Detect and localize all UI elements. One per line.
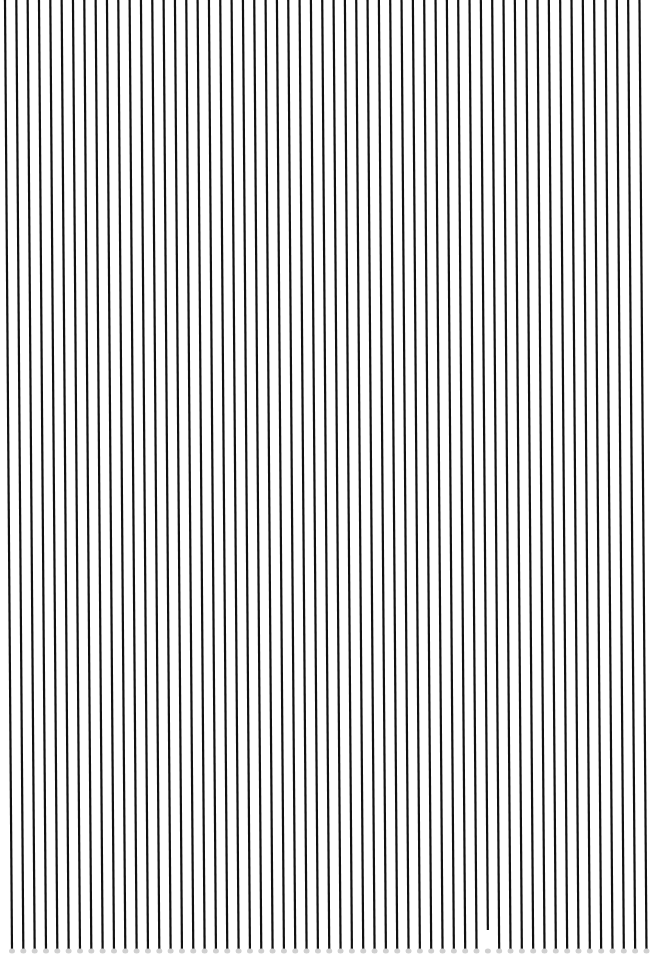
line-end-dot xyxy=(77,949,83,954)
grating-line xyxy=(232,0,239,950)
grating-line xyxy=(266,0,273,950)
line-end-dot xyxy=(621,949,627,954)
grating-line xyxy=(538,0,545,950)
grating-line xyxy=(118,0,125,950)
grating-line xyxy=(560,0,567,950)
line-end-dot xyxy=(519,949,525,954)
grating-line xyxy=(130,0,137,950)
grating-line xyxy=(107,0,114,950)
grating-line xyxy=(322,0,329,950)
line-end-dot xyxy=(190,949,196,954)
grating-line xyxy=(470,0,477,950)
line-end-dot xyxy=(553,949,559,954)
grating-line xyxy=(368,0,375,950)
line-end-dot xyxy=(576,949,582,954)
line-end-dot xyxy=(304,949,310,954)
grating-line xyxy=(141,0,148,950)
line-end-dot xyxy=(372,949,378,954)
line-end-dot xyxy=(451,949,457,954)
grating-line xyxy=(458,0,465,950)
line-end-dot xyxy=(508,949,514,954)
grating-line xyxy=(379,0,386,950)
grating-line xyxy=(526,0,533,950)
grating-line xyxy=(164,0,171,950)
line-end-dot xyxy=(485,949,491,954)
line-end-dot xyxy=(156,949,162,954)
grating-line xyxy=(39,0,46,950)
line-end-dot xyxy=(338,949,344,954)
grating-line xyxy=(50,0,57,950)
grating-line xyxy=(356,0,363,950)
grating-line xyxy=(277,0,284,950)
line-end-dot xyxy=(66,949,72,954)
line-end-dot xyxy=(88,949,94,954)
grating-line xyxy=(186,0,193,950)
line-end-dot xyxy=(542,949,548,954)
grating-line xyxy=(492,0,499,950)
line-end-dot xyxy=(43,949,49,954)
line-end-dot xyxy=(134,949,140,954)
grating-line xyxy=(402,0,409,950)
grating-line xyxy=(436,0,443,950)
line-end-dot xyxy=(100,949,106,954)
line-end-dot xyxy=(20,949,26,954)
line-end-dot xyxy=(360,949,366,954)
grating-line xyxy=(28,0,35,950)
line-end-dot xyxy=(168,949,174,954)
grating-line xyxy=(62,0,69,950)
line-end-dot xyxy=(122,949,128,954)
grating-line xyxy=(16,0,23,950)
line-end-dot xyxy=(496,949,502,954)
line-end-dot xyxy=(247,949,253,954)
grating-line xyxy=(152,0,159,950)
line-end-dot xyxy=(179,949,185,954)
line-end-dot xyxy=(406,949,412,954)
line-end-dot xyxy=(224,949,230,954)
line-end-dot xyxy=(440,949,446,954)
line-end-dot xyxy=(564,949,570,954)
line-end-dot xyxy=(258,949,264,954)
grating-line xyxy=(84,0,91,950)
line-end-dot xyxy=(326,949,332,954)
grating-line xyxy=(300,0,307,950)
line-end-dot xyxy=(32,949,38,954)
grating-line xyxy=(447,0,454,950)
grating-line xyxy=(96,0,103,950)
grating-line xyxy=(605,0,612,950)
grating-line xyxy=(515,0,522,950)
grating-line xyxy=(390,0,397,950)
line-end-dot xyxy=(315,949,321,954)
grating-line xyxy=(254,0,261,950)
grating-line xyxy=(594,0,601,950)
line-grating xyxy=(0,0,656,954)
line-end-dot xyxy=(598,949,604,954)
line-end-dot xyxy=(54,949,60,954)
line-end-dot xyxy=(587,949,593,954)
line-end-dot xyxy=(428,949,434,954)
grating-line xyxy=(243,0,250,950)
grating-line xyxy=(73,0,80,950)
line-end-dot xyxy=(383,949,389,954)
grating-line xyxy=(311,0,318,950)
grating-line xyxy=(198,0,205,950)
grating-line xyxy=(628,0,635,950)
grating-line xyxy=(288,0,295,950)
grating-line xyxy=(345,0,352,950)
line-end-dot xyxy=(474,949,480,954)
grating-line xyxy=(209,0,216,950)
grating-line xyxy=(5,0,12,950)
line-end-dot xyxy=(417,949,423,954)
line-end-dot xyxy=(462,949,468,954)
grating-line xyxy=(220,0,227,950)
grating-line xyxy=(424,0,431,950)
line-end-dot xyxy=(270,949,276,954)
grating-line xyxy=(504,0,511,950)
line-end-dot xyxy=(213,949,219,954)
grating-line xyxy=(334,0,341,950)
line-end-dot xyxy=(609,949,615,954)
line-end-dot xyxy=(394,949,400,954)
grating-line xyxy=(617,0,624,950)
line-end-dot xyxy=(349,949,355,954)
grating-line xyxy=(583,0,590,950)
line-end-dot xyxy=(145,949,151,954)
